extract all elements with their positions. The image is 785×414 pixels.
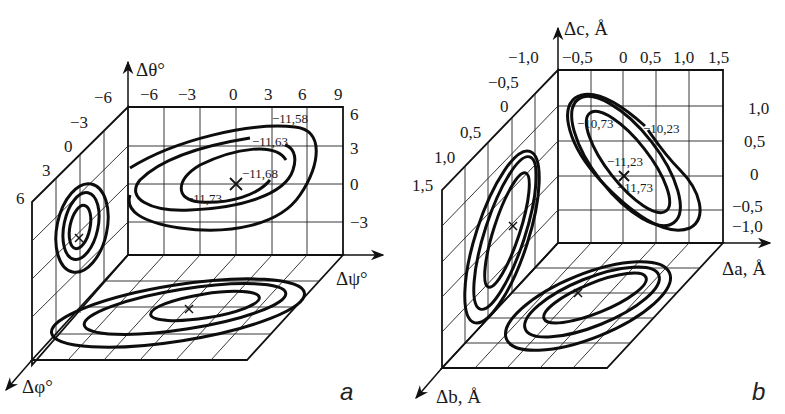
svg-text:0: 0 (64, 137, 73, 156)
svg-text:1,0: 1,0 (748, 99, 769, 118)
svg-text:3: 3 (264, 85, 273, 104)
svg-text:0,5: 0,5 (460, 123, 481, 142)
svg-text:0: 0 (619, 48, 628, 67)
svg-text:6: 6 (298, 85, 307, 104)
svg-text:−0,5: −0,5 (488, 73, 519, 92)
svg-text:−11,73: −11,73 (186, 191, 222, 206)
svg-text:0,5: 0,5 (744, 132, 765, 151)
panel-b: Δc, Å Δa, Å Δb, Å −1,0 −0,5 0 0,5 1,0 1,… (412, 18, 770, 407)
svg-text:3: 3 (42, 161, 51, 180)
panel-b-floor-contours (494, 243, 681, 368)
svg-text:−0,5: −0,5 (732, 197, 763, 216)
svg-text:−6: −6 (94, 88, 112, 107)
panel-b-label: b (752, 378, 765, 405)
panel-b-b-label: Δb, Å (436, 386, 481, 407)
panel-a-side-contours (48, 179, 116, 277)
panel-b-c-label: Δc, Å (564, 18, 608, 39)
panel-a-label: a (340, 378, 353, 405)
panel-a-phi-label: Δφ° (22, 376, 53, 397)
panel-a-contour-labels: −11,58 −11,63 −11,68 −11,73 (186, 111, 308, 206)
panel-a: Δθ° Δψ° Δφ° −6 −3 0 3 6 9 6 3 0 −3 −6 −3… (6, 59, 383, 405)
figure: Δθ° Δψ° Δφ° −6 −3 0 3 6 9 6 3 0 −3 −6 −3… (0, 0, 785, 414)
svg-text:−0,5: −0,5 (562, 48, 593, 67)
panel-a-side-minimum-marker (75, 234, 83, 242)
svg-text:−3: −3 (350, 213, 368, 232)
panel-b-floor (442, 243, 723, 368)
svg-text:−11,68: −11,68 (242, 166, 278, 181)
svg-text:−3: −3 (178, 85, 196, 104)
svg-text:−3: −3 (70, 113, 88, 132)
svg-text:6: 6 (16, 189, 25, 208)
svg-text:1,0: 1,0 (673, 48, 694, 67)
svg-text:1,0: 1,0 (434, 148, 455, 167)
panel-b-top-ticks: −0,5 0 0,5 1,0 1,5 (562, 48, 729, 67)
svg-text:0,5: 0,5 (640, 48, 661, 67)
svg-text:−11,23: −11,23 (607, 154, 643, 169)
svg-text:1,5: 1,5 (708, 48, 729, 67)
svg-text:−10,23: −10,23 (643, 121, 680, 136)
svg-text:0: 0 (350, 175, 359, 194)
panel-b-a-label: Δa, Å (722, 258, 766, 279)
svg-text:0: 0 (750, 165, 759, 184)
svg-text:−11,63: −11,63 (252, 134, 288, 149)
panel-a-side-ticks: −6 −3 0 3 6 (16, 88, 112, 208)
panel-a-right-ticks: 6 3 0 −3 (350, 105, 368, 232)
svg-text:−6: −6 (140, 85, 158, 104)
panel-a-back-contours (129, 126, 316, 230)
svg-text:0: 0 (500, 97, 509, 116)
svg-text:−11,58: −11,58 (272, 111, 308, 126)
panel-a-psi-label: Δψ° (336, 268, 368, 289)
svg-text:0: 0 (229, 85, 238, 104)
svg-text:−10,73: −10,73 (577, 116, 614, 131)
svg-text:6: 6 (350, 105, 359, 124)
svg-text:1,5: 1,5 (412, 176, 433, 195)
svg-text:3: 3 (350, 139, 359, 158)
svg-text:−1,0: −1,0 (732, 217, 763, 236)
svg-text:−11,73: −11,73 (617, 180, 653, 195)
panel-a-theta-label: Δθ° (136, 59, 165, 80)
svg-text:9: 9 (334, 85, 343, 104)
panel-b-top-left-tick: −1,0 (508, 48, 539, 67)
panel-a-top-ticks: −6 −3 0 3 6 9 (140, 85, 343, 104)
panel-b-right-ticks: 1,0 0,5 0 −0,5 −1,0 (732, 99, 769, 236)
